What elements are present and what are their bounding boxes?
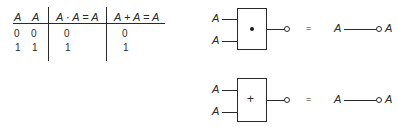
column-divider-2: [106, 7, 107, 61]
cell: 1: [65, 42, 71, 53]
or-symbol-plus: +: [247, 92, 254, 106]
column-divider-1: [48, 7, 49, 61]
cell: 1: [123, 42, 129, 53]
and-equiv-terminal-icon: [376, 26, 382, 32]
or-output-terminal-icon: [284, 97, 290, 103]
cell: 0: [31, 28, 37, 39]
or-equiv-terminal-icon: [376, 97, 382, 103]
or-input-wire-2: [222, 112, 237, 113]
header-or-identity: A + A = A: [114, 11, 159, 23]
and-output-terminal-icon: [284, 26, 290, 32]
cell: 0: [64, 28, 70, 39]
or-input-label-1: A: [212, 83, 219, 95]
cell: 1: [32, 42, 38, 53]
and-input-wire-1: [222, 19, 237, 20]
or-input-label-2: A: [212, 105, 219, 117]
cell: 0: [14, 28, 20, 39]
or-input-wire-1: [222, 90, 237, 91]
cell: 1: [15, 42, 21, 53]
and-input-label-1: A: [212, 12, 219, 24]
and-input-label-2: A: [212, 34, 219, 46]
and-output-wire: [267, 29, 285, 30]
cell: 0: [122, 28, 128, 39]
header-rule: [13, 23, 165, 24]
or-output-wire: [267, 100, 285, 101]
and-symbol-dot: [250, 27, 254, 31]
or-equiv-wire: [344, 100, 376, 101]
or-equals-sign: =: [306, 94, 311, 104]
or-equiv-output: A: [385, 93, 392, 105]
header-a1: A: [14, 11, 21, 23]
and-equals-sign: =: [306, 23, 311, 33]
and-equiv-input: A: [334, 22, 341, 34]
and-equiv-wire: [344, 29, 376, 30]
and-equiv-output: A: [385, 22, 392, 34]
header-and-identity: A · A = A: [56, 11, 99, 23]
or-equiv-input: A: [334, 93, 341, 105]
header-a2: A: [32, 11, 39, 23]
and-input-wire-2: [222, 41, 237, 42]
